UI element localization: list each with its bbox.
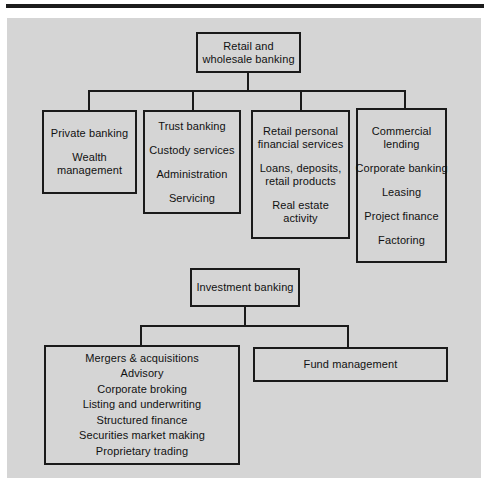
connector-drop-ib-activities: [140, 325, 142, 346]
node-investment-banking[interactable]: Investment banking: [190, 268, 300, 307]
node-line: Project finance: [364, 210, 438, 223]
connector-retail-bus: [88, 90, 406, 92]
node-text-group: Retail and wholesale banking: [202, 40, 294, 66]
node-text-group: Custody services: [149, 144, 234, 157]
node-text-group: Trust banking: [158, 120, 226, 133]
node-line: Investment banking: [196, 281, 293, 294]
node-line: retail products: [260, 175, 342, 188]
node-trust-banking[interactable]: Trust banking Custody services Administr…: [143, 110, 241, 214]
connector-drop-private-banking: [88, 90, 90, 111]
node-text-group: Fund management: [304, 358, 398, 371]
connector-drop-commercial-lending: [404, 90, 406, 109]
node-text-group: Servicing: [169, 192, 215, 205]
connector-drop-trust-banking: [192, 90, 194, 111]
node-fund-management[interactable]: Fund management: [253, 347, 448, 382]
node-line: Servicing: [169, 192, 215, 205]
node-line: Custody services: [149, 144, 234, 157]
node-text-group: Administration: [156, 168, 227, 181]
connector-root-investment-trunk: [244, 307, 246, 326]
node-line: Securities market making: [79, 428, 205, 444]
node-text-group: Retail personal financial services: [258, 125, 344, 151]
node-retail-and-wholesale-banking[interactable]: Retail and wholesale banking: [196, 32, 301, 73]
node-line: Advisory: [121, 366, 164, 382]
node-line: Administration: [156, 168, 227, 181]
node-text-group: Listing and underwriting: [83, 397, 202, 413]
node-commercial-lending[interactable]: Commercial lending Corporate banking Lea…: [356, 108, 447, 263]
node-line: Proprietary trading: [96, 444, 188, 460]
node-line: Structured finance: [96, 413, 187, 429]
node-line: Retail personal: [258, 125, 344, 138]
node-investment-banking-activities[interactable]: Mergers & acquisitions Advisory Corporat…: [44, 345, 240, 465]
node-text-group: Advisory: [121, 366, 164, 382]
node-text-group: Investment banking: [196, 281, 293, 294]
node-private-banking[interactable]: Private banking Wealth management: [42, 110, 137, 194]
connector-investment-bus: [140, 325, 349, 327]
connector-drop-fund-management: [347, 325, 349, 348]
node-line: Real estate: [272, 199, 329, 212]
node-text-group: Factoring: [378, 234, 425, 247]
node-line: Commercial: [372, 125, 432, 138]
node-line: lending: [372, 138, 432, 151]
node-text-group: Wealth management: [57, 151, 122, 177]
page-canvas: Retail and wholesale banking Private ban…: [0, 0, 488, 492]
node-text-group: Corporate banking: [355, 162, 447, 175]
node-text-group: Project finance: [364, 210, 438, 223]
node-text-group: Commercial lending: [372, 125, 432, 151]
node-text-group: Real estate activity: [272, 199, 329, 225]
node-line: Loans, deposits,: [260, 162, 342, 175]
connector-drop-retail-personal: [300, 90, 302, 111]
node-line: activity: [272, 212, 329, 225]
node-line: Corporate broking: [97, 382, 187, 398]
node-line: Mergers & acquisitions: [85, 351, 198, 367]
node-line: Corporate banking: [355, 162, 447, 175]
node-line: Retail and: [202, 40, 294, 53]
node-line: financial services: [258, 138, 344, 151]
node-text-group: Private banking: [51, 127, 128, 140]
node-line: Wealth: [57, 151, 122, 164]
node-line: Factoring: [378, 234, 425, 247]
node-text-group: Structured finance: [96, 413, 187, 429]
node-text-group: Corporate broking: [97, 382, 187, 398]
node-line: Leasing: [382, 186, 421, 199]
node-text-group: Loans, deposits, retail products: [260, 162, 342, 188]
node-line: management: [57, 164, 122, 177]
node-text-group: Proprietary trading: [96, 444, 188, 460]
node-text-group: Mergers & acquisitions: [85, 351, 198, 367]
node-text-group: Leasing: [382, 186, 421, 199]
connector-root-retail-trunk: [247, 73, 249, 91]
node-text-group: Securities market making: [79, 428, 205, 444]
node-line: wholesale banking: [202, 53, 294, 66]
node-retail-personal-financial-services[interactable]: Retail personal financial services Loans…: [251, 110, 350, 239]
node-line: Listing and underwriting: [83, 397, 202, 413]
node-line: Fund management: [304, 358, 398, 371]
org-chart: Retail and wholesale banking Private ban…: [0, 0, 488, 492]
node-line: Trust banking: [158, 120, 226, 133]
node-line: Private banking: [51, 127, 128, 140]
